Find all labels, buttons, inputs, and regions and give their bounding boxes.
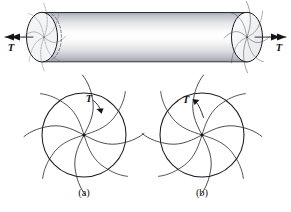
right-torque-label: T <box>276 42 283 53</box>
section-b-torque-label: T <box>183 94 190 105</box>
torsion-figure: T T <box>0 0 291 212</box>
left-torque-label: T <box>8 42 15 53</box>
section-b-center-dot <box>201 134 204 137</box>
shaft-group: T T <box>5 1 286 72</box>
section-a-torque-label: T <box>86 93 93 104</box>
section-a-caption: (a) <box>78 187 90 199</box>
cross-section-a: T (a) <box>24 75 144 199</box>
figure-canvas: T T <box>0 0 291 212</box>
section-a-center-dot <box>83 134 86 137</box>
shaft-body <box>42 13 247 62</box>
cross-section-b: T (b) <box>142 75 262 199</box>
section-b-caption: (b) <box>196 187 209 199</box>
